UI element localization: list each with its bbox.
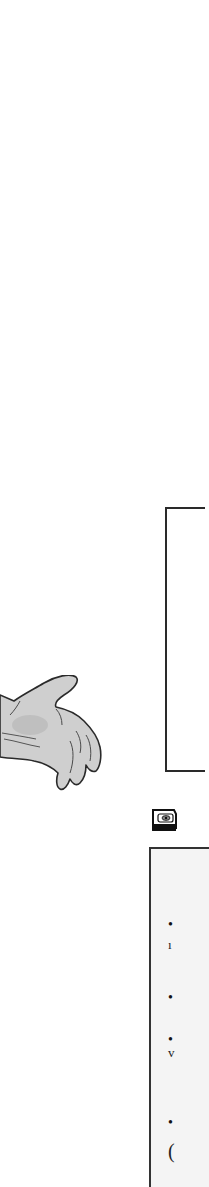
- text-fragment: (: [168, 1145, 175, 1158]
- hand-illustration: [0, 675, 112, 795]
- bullet-list-box: [149, 847, 209, 1187]
- list-bullet: •: [168, 1116, 173, 1130]
- list-bullet: •: [168, 918, 173, 932]
- text-fragment: v: [168, 1046, 175, 1059]
- list-bullet: •: [168, 991, 173, 1005]
- text-fragment: ı: [168, 938, 172, 951]
- cropped-text-box: [165, 507, 205, 772]
- disk-icon: [150, 806, 178, 834]
